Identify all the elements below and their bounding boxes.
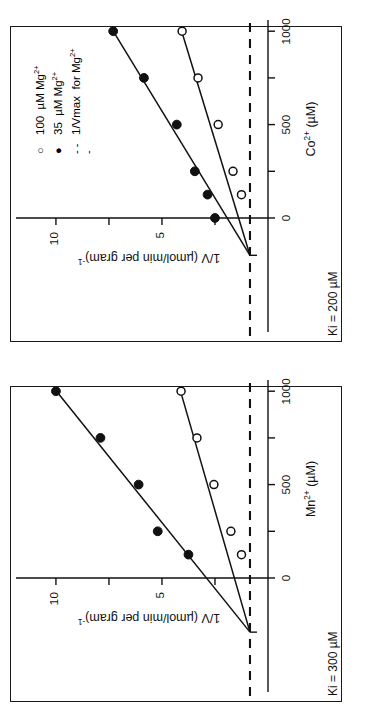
legend-row-mg100-label: 100 µM Mg2+ <box>34 65 46 135</box>
legend-row-vmax: - - -1/Vmax for Mg2+ <box>70 48 94 154</box>
x-axis-title: Co2+ (µM) <box>304 102 318 157</box>
data-point-1-3 <box>193 434 201 442</box>
plot-canvas <box>0 360 366 720</box>
data-point-1-2 <box>210 481 218 489</box>
x-tick-label-500: 500 <box>280 475 292 495</box>
legend-row-vmax-label: 1/Vmax for Mg2+ <box>70 48 82 135</box>
data-point-0-4 <box>52 387 61 396</box>
x-tick-label-1000: 1000 <box>280 378 292 404</box>
data-point-1-2 <box>214 121 222 129</box>
open-circle-icon: ○ <box>34 140 46 154</box>
data-point-0-0 <box>211 214 220 223</box>
y-axis-title: 1/V (µmol/min per gram)-1 <box>78 611 220 625</box>
y-tick-label-5: 5 <box>154 232 166 239</box>
data-point-0-1 <box>153 527 162 536</box>
data-point-1-1 <box>227 527 235 535</box>
filled-circle-icon: ● <box>52 140 64 154</box>
data-point-1-0 <box>237 551 245 559</box>
x-tick-label-0: 0 <box>280 215 292 222</box>
x-tick-label-500: 500 <box>280 115 292 135</box>
y-tick-label-5: 5 <box>154 592 166 599</box>
data-point-0-3 <box>172 120 181 129</box>
data-point-1-1 <box>229 167 237 175</box>
data-point-0-3 <box>96 433 105 442</box>
x-tick-label-0: 0 <box>280 575 292 582</box>
y-tick-label-10: 10 <box>48 592 60 605</box>
legend-row-mg35-label: 35 µM Mg2+ <box>52 72 64 135</box>
ki-annotation: Ki = 200 µM <box>326 271 340 336</box>
x-tick-label-1000: 1000 <box>280 18 292 44</box>
x-axis-title: Mn2+ (µM) <box>304 461 318 517</box>
data-point-1-3 <box>194 74 202 82</box>
fit-line-1 <box>180 389 250 632</box>
fit-line-0 <box>112 29 250 255</box>
panel-mn: 05001000510Mn2+ (µM)1/V (µmol/min per gr… <box>0 360 366 720</box>
data-point-0-1 <box>203 190 212 199</box>
legend-row-mg100: ○100 µM Mg2+ <box>34 48 46 154</box>
data-point-0-2 <box>134 480 143 489</box>
figure-page: 05001000510Co2+ (µM)1/V (µmol/min per gr… <box>0 0 366 720</box>
panel-co: 05001000510Co2+ (µM)1/V (µmol/min per gr… <box>0 0 366 360</box>
fit-line-0 <box>55 389 250 632</box>
data-point-0-5 <box>109 27 118 36</box>
data-point-0-0 <box>184 550 193 559</box>
y-tick-label-10: 10 <box>48 232 60 245</box>
data-point-0-4 <box>140 73 149 82</box>
dashed-line-icon: - - - <box>70 140 94 154</box>
legend-row-mg35: ●35 µM Mg2+ <box>52 48 64 154</box>
ki-annotation: Ki = 300 µM <box>326 631 340 696</box>
data-point-1-4 <box>178 27 186 35</box>
data-point-1-4 <box>177 387 185 395</box>
legend: ○100 µM Mg2+●35 µM Mg2+- - -1/Vmax for M… <box>34 48 100 154</box>
y-axis-title: 1/V (µmol/min per gram)-1 <box>78 251 220 265</box>
data-point-1-0 <box>237 191 245 199</box>
data-point-0-2 <box>190 167 199 176</box>
